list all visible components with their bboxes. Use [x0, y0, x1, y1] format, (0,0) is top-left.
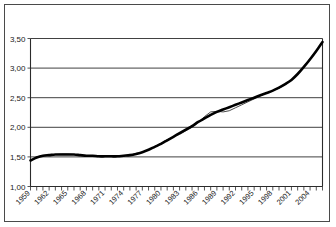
series-group [31, 42, 323, 161]
x-axis-tick-label: 1974 [107, 189, 125, 207]
gridlines-group [31, 39, 323, 187]
x-axis-tick-label: 1962 [32, 189, 50, 207]
x-axis-tick-label: 1989 [200, 189, 218, 207]
y-axis-tick-label: 2,50 [10, 94, 26, 103]
y-axis-tick-label: 3,50 [10, 35, 26, 44]
x-axis-tick-label: 1998 [256, 189, 274, 207]
x-axis-tick-label: 2004 [293, 189, 311, 207]
x-axis-tick-label: 1992 [219, 189, 237, 207]
series-line-actual [31, 43, 323, 161]
x-axis-tick-label: 1986 [181, 189, 199, 207]
y-axis-tick-label: 1,50 [10, 153, 26, 162]
series-line-trend [31, 42, 323, 160]
y-axis-tick-label: 3,00 [10, 64, 26, 73]
y-axis-tick-label: 2,00 [10, 123, 26, 132]
axes-group [31, 39, 323, 187]
chart-container: 1,001,502,002,503,003,50 195919621965196… [0, 0, 336, 227]
tick-marks-group [28, 39, 323, 191]
x-axis-tick-label: 1980 [144, 189, 162, 207]
y-axis-labels-group: 1,001,502,002,503,003,50 [10, 35, 26, 192]
x-axis-labels-group: 1959196219651968197119741977198019831986… [14, 189, 312, 207]
x-axis-tick-label: 1983 [163, 189, 181, 207]
line-chart: 1,001,502,002,503,003,50 195919621965196… [0, 0, 336, 227]
x-axis-tick-label: 1995 [237, 189, 255, 207]
x-axis-tick-label: 1971 [88, 189, 106, 207]
x-axis-tick-label: 1977 [126, 189, 144, 207]
x-axis-tick-label: 1965 [51, 189, 69, 207]
x-axis-tick-label: 1968 [70, 189, 88, 207]
x-axis-tick-label: 2001 [275, 189, 293, 207]
